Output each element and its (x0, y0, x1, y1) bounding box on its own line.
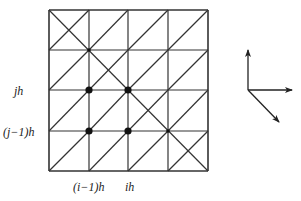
cell-diagonal (89, 131, 128, 171)
cell-diagonal (49, 131, 89, 171)
triangulated-grid-diagram: jh (j−1)h (i−1)h ih (0, 0, 301, 201)
cell-diagonal (168, 50, 208, 90)
grid-node-marked (85, 127, 92, 134)
cell-diagonal (128, 50, 168, 90)
grid-node (166, 129, 170, 133)
grid-node (87, 48, 91, 52)
x-label-ih: ih (125, 180, 134, 194)
cell-diagonal (168, 90, 208, 131)
x-axis-labels: (i−1)h ih (73, 180, 134, 194)
grid-node-marked (85, 86, 92, 93)
cell-diagonal (49, 50, 89, 90)
cell-diagonal (49, 90, 89, 131)
cell-diagonal (128, 131, 168, 171)
cell-diagonal (168, 10, 208, 50)
grid-node-marked (124, 86, 131, 93)
y-axis-labels: jh (j−1)h (3, 84, 34, 139)
cell-diagonal (128, 10, 168, 50)
arrow-down-right-icon (248, 90, 279, 122)
y-label-j-minus-1-h: (j−1)h (3, 125, 34, 139)
y-label-jh: jh (12, 84, 23, 98)
direction-vectors (248, 50, 292, 122)
x-label-i-minus-1-h: (i−1)h (73, 180, 104, 194)
cell-diagonal (89, 10, 128, 50)
grid-node-marked (124, 127, 131, 134)
cell-diagonal (89, 90, 128, 131)
